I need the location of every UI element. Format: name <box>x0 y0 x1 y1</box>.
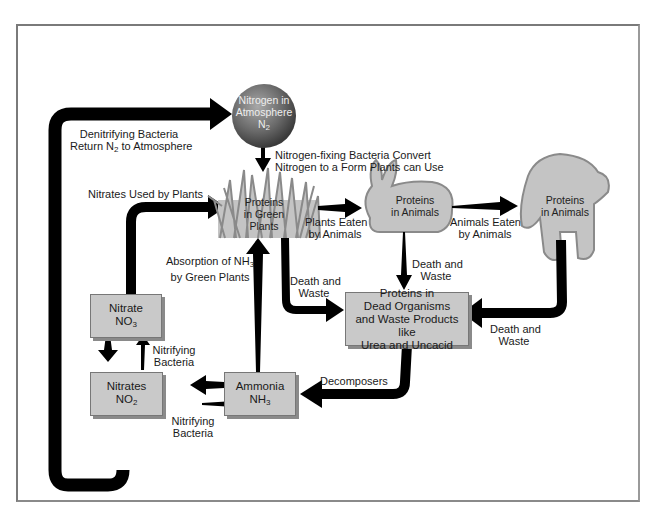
rabbit-line1: Proteins <box>380 194 450 206</box>
denitrifying-line1: Denitrifying Bacteria <box>70 128 188 140</box>
rabbit-node: Proteins in Animals <box>380 194 450 218</box>
plants-node: Proteins in Green Plants <box>234 196 294 232</box>
bear-death-line1: Death and <box>490 323 538 335</box>
plants-death-label: Death and Waste <box>290 275 338 299</box>
plants-line3: Plants <box>234 220 294 232</box>
nitrifying-right-line1: Nitrifying <box>169 415 217 427</box>
nitrates-line1: Nitrates <box>107 380 147 393</box>
diagram-artwork <box>0 0 650 517</box>
rabbit-death-line1: Death and <box>412 258 460 270</box>
denitrifying-label: Denitrifying Bacteria Return N2 to Atmos… <box>70 128 188 156</box>
rabbit-line2: in Animals <box>380 206 450 218</box>
nitrifying-up-line2: Bacteria <box>150 356 198 368</box>
nitrates-box: Nitrates NO2 <box>90 372 163 416</box>
decomposers-label: Decomposers <box>320 375 388 387</box>
nitrifying-up-line1: Nitrifying <box>150 344 198 356</box>
plants-eaten-label: Plants Eaten by Animals <box>305 216 365 240</box>
rabbit-death-arrow <box>396 232 412 290</box>
bear-node: Proteins in Animals <box>530 194 600 218</box>
plants-death-line1: Death and <box>290 275 338 287</box>
plants-line1: Proteins <box>234 196 294 208</box>
nitrifying-right-label: Nitrifying Bacteria <box>169 415 217 439</box>
bear-line2: in Animals <box>530 206 600 218</box>
nitrifying-up-label: Nitrifying Bacteria <box>150 344 198 368</box>
rabbit-death-label: Death and Waste <box>412 258 460 282</box>
dead-line2: Dead Organisms <box>364 300 450 313</box>
atmosphere-line1: Nitrogen in <box>234 94 294 106</box>
fixing-line2: Nitrogen to a Form Plants can Use <box>275 161 444 173</box>
dead-line4: Urea and Uncacid <box>361 339 453 352</box>
dead-organisms-box: Proteins in Dead Organisms and Waste Pro… <box>345 292 469 346</box>
dead-line1: Proteins in <box>380 287 434 300</box>
animals-eaten-line1: Animals Eaten <box>450 216 520 228</box>
plants-line2: in Green <box>234 208 294 220</box>
animals-eaten-label: Animals Eaten by Animals <box>450 216 520 240</box>
nitrate-formula: NO3 <box>115 315 137 331</box>
animals-eaten-line2: by Animals <box>450 228 520 240</box>
bear-line1: Proteins <box>530 194 600 206</box>
rabbit-death-line2: Waste <box>412 270 460 282</box>
absorption-line2: by Green Plants <box>165 271 255 283</box>
nitrate-down-arrow <box>98 335 118 362</box>
nitrate-box: Nitrate NO3 <box>90 294 162 338</box>
plants-death-line2: Waste <box>290 287 338 299</box>
bear-death-line2: Waste <box>490 335 538 347</box>
absorption-line1: Absorption of NH3 <box>165 255 255 271</box>
fixing-label: Nitrogen-fixing Bacteria Convert Nitroge… <box>275 149 444 173</box>
plants-eaten-line1: Plants Eaten <box>305 216 365 228</box>
plants-eaten-line2: by Animals <box>305 228 365 240</box>
nitrifying-right-line2: Bacteria <box>169 427 217 439</box>
denitrifying-line2: Return N2 to Atmosphere <box>70 140 188 156</box>
nitrates-used-label: Nitrates Used by Plants <box>88 188 203 200</box>
atmosphere-formula: N2 <box>234 118 294 134</box>
nitrifying-up-arrow <box>136 335 150 370</box>
nitrates-formula: NO2 <box>116 393 138 409</box>
bear-death-label: Death and Waste <box>490 323 538 347</box>
fixing-line1: Nitrogen-fixing Bacteria Convert <box>275 149 444 161</box>
ammonia-formula: NH3 <box>249 393 270 409</box>
atmosphere-line2: Atmosphere <box>234 106 294 118</box>
plants-eaten-arrow <box>318 198 362 218</box>
ammonia-line1: Ammonia <box>236 380 285 393</box>
animals-eaten-arrow <box>452 196 518 216</box>
atmosphere-node: Nitrogen in Atmosphere N2 <box>234 94 294 134</box>
dead-line3: and Waste Products like <box>346 313 468 339</box>
nitrate-line1: Nitrate <box>109 302 143 315</box>
ammonia-box: Ammonia NH3 <box>224 372 296 416</box>
absorption-label: Absorption of NH3 by Green Plants <box>165 255 255 283</box>
